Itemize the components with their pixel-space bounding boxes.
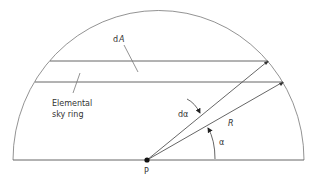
R-label: R (228, 119, 234, 128)
ray-upper-end-tick (264, 61, 269, 65)
alpha-arc-arrow (208, 128, 215, 159)
sky-ring-diagram: dA Elemental sky ring dα R α P (0, 0, 320, 181)
dalpha-label: dα (178, 110, 188, 119)
elemental-ring-leader (73, 73, 80, 93)
elemental-label-line1: Elemental (52, 99, 92, 108)
dalpha-arrow (187, 99, 200, 113)
ray-lower (147, 82, 283, 160)
ray-upper (147, 61, 268, 160)
ray-lower-end-tick (279, 82, 284, 86)
dA-leader (124, 45, 138, 72)
hemisphere-outline (13, 10, 304, 160)
P-label: P (144, 167, 149, 176)
dA-label: dA (113, 35, 125, 44)
elemental-label-line2: sky ring (52, 110, 83, 119)
alpha-label: α (219, 138, 224, 147)
observer-point-P (144, 157, 149, 162)
